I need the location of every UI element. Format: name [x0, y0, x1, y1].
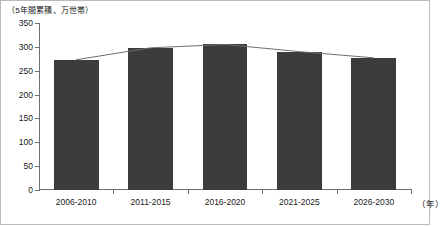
x-axis-category-label: 2021-2025	[279, 197, 320, 207]
x-axis-category-label: 2006-2010	[56, 197, 97, 207]
x-axis-unit-label: （年）	[417, 197, 443, 209]
y-axis-tick-label: 350	[19, 18, 33, 28]
y-axis-tick-label: 150	[19, 113, 33, 123]
y-axis-unit-label: （5年間累積、万世帯）	[7, 4, 94, 15]
y-axis-tick-label: 200	[19, 90, 33, 100]
y-axis-tick-label: 250	[19, 66, 33, 76]
trend-line	[39, 23, 411, 190]
plot-area: 050100150200250300350 2006-20102011-2015…	[39, 23, 411, 190]
y-axis-tick-label: 300	[19, 42, 33, 52]
x-axis-category-label: 2011-2015	[131, 197, 171, 207]
y-axis-tick-label: 100	[19, 137, 33, 147]
y-axis-tick	[35, 190, 40, 191]
y-axis-tick-label: 50	[24, 161, 33, 171]
x-axis-tick	[411, 189, 412, 194]
y-axis-tick-label: 0	[28, 185, 33, 195]
x-axis-category-label: 2016-2020	[205, 197, 246, 207]
chart-figure: （5年間累積、万世帯） 050100150200250300350 2006-2…	[0, 0, 430, 225]
x-axis-category-label: 2026-2030	[353, 197, 394, 207]
